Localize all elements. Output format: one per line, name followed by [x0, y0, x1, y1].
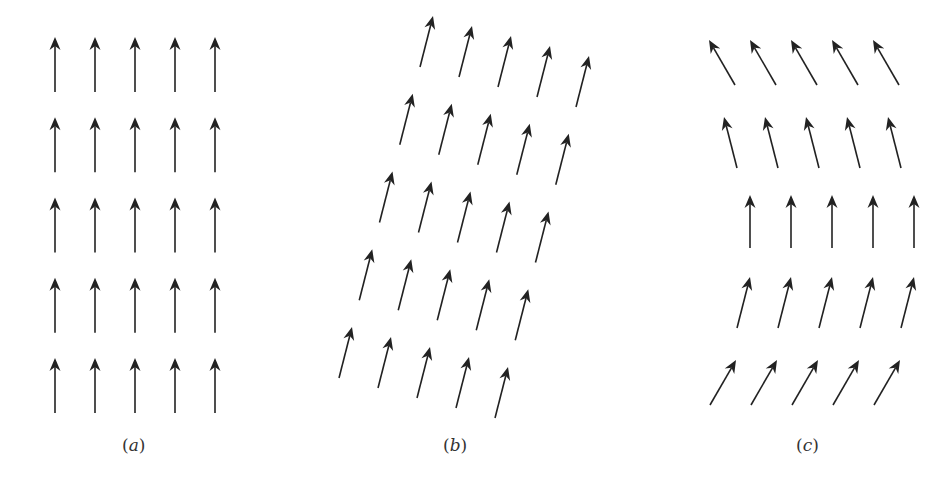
- arrow-shaft: [576, 65, 587, 107]
- panel-c-rotating-field: [709, 40, 920, 405]
- arrow-shaft: [714, 48, 735, 85]
- vector-field-figure: [0, 0, 950, 488]
- arrow-shaft: [710, 368, 731, 405]
- panel-c-label: (c): [796, 435, 819, 455]
- arrow-shaft: [726, 126, 737, 168]
- arrow-shaft: [901, 286, 912, 328]
- arrow-shaft: [819, 286, 830, 328]
- arrow-shaft: [458, 200, 469, 242]
- arrow-head-icon: [832, 40, 843, 54]
- arrow-shaft: [808, 126, 819, 168]
- panel-a-uniform-field: [50, 37, 221, 413]
- arrow-shaft: [556, 142, 567, 184]
- panel-a-label: (a): [122, 435, 145, 455]
- arrow-shaft: [497, 210, 508, 252]
- arrow-shaft: [417, 356, 428, 398]
- arrow-shaft: [792, 368, 813, 405]
- arrow-shaft: [378, 346, 389, 388]
- panel-b-sheared-field: [339, 16, 591, 418]
- arrow-shaft: [860, 286, 871, 328]
- arrow-shaft: [849, 126, 860, 168]
- arrow-head-icon: [725, 360, 736, 374]
- arrow-shaft: [878, 48, 899, 85]
- arrow-shaft: [536, 220, 547, 262]
- arrow-shaft: [537, 55, 548, 97]
- arrow-shaft: [459, 35, 470, 77]
- arrow-shaft: [400, 102, 411, 144]
- arrow-shaft: [517, 132, 528, 174]
- panel-b-label: (b): [443, 435, 467, 455]
- arrow-shaft: [339, 336, 350, 378]
- arrow-shaft: [767, 126, 778, 168]
- arrow-shaft: [420, 25, 431, 67]
- arrow-shaft: [890, 126, 901, 168]
- arrow-shaft: [419, 190, 430, 232]
- arrow-shaft: [478, 122, 489, 164]
- arrow-shaft: [495, 376, 506, 418]
- arrow-head-icon: [873, 40, 884, 54]
- arrow-shaft: [439, 112, 450, 154]
- arrow-shaft: [737, 286, 748, 328]
- arrow-shaft: [515, 298, 526, 340]
- arrow-head-icon: [807, 360, 818, 374]
- arrow-shaft: [796, 48, 817, 85]
- arrow-head-icon: [889, 360, 900, 374]
- arrow-shaft: [476, 288, 487, 330]
- arrow-shaft: [778, 286, 789, 328]
- arrow-shaft: [437, 278, 448, 320]
- arrow-shaft: [498, 45, 509, 87]
- arrow-shaft: [755, 48, 776, 85]
- arrow-shaft: [751, 368, 772, 405]
- arrow-shaft: [359, 258, 370, 300]
- arrow-shaft: [456, 366, 467, 408]
- arrow-shaft: [380, 180, 391, 222]
- arrow-head-icon: [750, 40, 761, 54]
- arrow-head-icon: [709, 40, 720, 54]
- arrow-shaft: [398, 268, 409, 310]
- arrow-head-icon: [848, 360, 859, 374]
- arrow-shaft: [874, 368, 895, 405]
- arrow-shaft: [833, 368, 854, 405]
- arrow-head-icon: [791, 40, 802, 54]
- arrow-head-icon: [766, 360, 777, 374]
- arrow-shaft: [837, 48, 858, 85]
